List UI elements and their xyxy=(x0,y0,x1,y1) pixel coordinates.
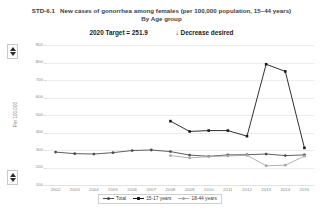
data-point-marker[interactable] xyxy=(73,152,76,155)
data-point-marker[interactable] xyxy=(265,153,268,156)
y-axis-tick-label: 900 xyxy=(30,43,43,47)
legend-label: 15-17 years xyxy=(146,196,171,201)
triangle-up-icon[interactable] xyxy=(10,173,16,177)
target-label: 2020 Target = 251.9 xyxy=(89,29,147,36)
triangle-up-icon[interactable] xyxy=(10,47,16,51)
x-axis-tick-label: 2009 xyxy=(180,187,200,192)
data-point-marker[interactable] xyxy=(131,149,134,152)
y-axis-tick-label: 800 xyxy=(30,60,43,64)
data-point-marker[interactable] xyxy=(227,129,230,132)
x-axis-tick-label: 2015 xyxy=(294,187,314,192)
chart-title-line: STD-6.1New cases of gonorrhea among fema… xyxy=(0,7,323,15)
scroll-down-spinner[interactable] xyxy=(7,170,18,185)
y-axis-tick-label: 300 xyxy=(30,148,43,152)
x-axis-tick-label: 2011 xyxy=(218,187,238,192)
data-point-marker[interactable] xyxy=(169,150,172,153)
target-block: 2020 Target = 251.9 ↓ Decrease desired xyxy=(0,29,323,36)
y-axis-tick-label: 600 xyxy=(30,95,43,99)
data-point-marker[interactable] xyxy=(169,120,172,123)
data-point-marker[interactable] xyxy=(188,156,191,159)
series-line xyxy=(170,64,304,148)
data-point-marker[interactable] xyxy=(207,129,210,132)
legend-swatch-icon xyxy=(103,196,114,201)
x-axis-tick-label: 2012 xyxy=(237,187,257,192)
measure-id: STD-6.1 xyxy=(32,7,55,14)
x-axis-tick-label: 2008 xyxy=(160,187,180,192)
chart-legend[interactable]: Total15-17 years18-44 years xyxy=(98,194,222,204)
data-point-marker[interactable] xyxy=(246,154,249,157)
data-point-marker[interactable] xyxy=(265,164,268,167)
series-layer xyxy=(46,45,314,185)
x-axis-line xyxy=(46,185,314,186)
data-point-marker[interactable] xyxy=(188,130,191,133)
plot-area: 900800700600500400300200100 200220032004… xyxy=(46,45,314,185)
data-point-marker[interactable] xyxy=(265,63,268,66)
y-axis-tick-label: 700 xyxy=(30,78,43,82)
x-axis-tick-label: 2003 xyxy=(65,187,85,192)
direction-indicator: ↓ Decrease desired xyxy=(176,29,234,36)
y-axis-tick-label: 100 xyxy=(30,183,43,187)
x-axis-tick-label: 2006 xyxy=(122,187,142,192)
chart-title-block: STD-6.1New cases of gonorrhea among fema… xyxy=(0,7,323,23)
triangle-down-icon[interactable] xyxy=(10,178,16,182)
triangle-down-icon[interactable] xyxy=(10,52,16,56)
data-point-marker[interactable] xyxy=(112,151,115,154)
series-line xyxy=(170,155,304,166)
direction-label: Decrease desired xyxy=(181,29,234,36)
page-title: New cases of gonorrhea among females (pe… xyxy=(60,7,291,14)
legend-label: 18-44 years xyxy=(191,196,216,201)
data-point-marker[interactable] xyxy=(226,155,229,158)
chart-page: STD-6.1New cases of gonorrhea among fema… xyxy=(0,0,323,221)
chart-subtitle: By Age group xyxy=(0,15,323,23)
data-point-marker[interactable] xyxy=(303,155,306,158)
data-point-marker[interactable] xyxy=(303,147,306,150)
y-axis-tick-label: 500 xyxy=(30,113,43,117)
legend-item[interactable]: 15-17 years xyxy=(133,196,171,201)
x-axis-tick-label: 2010 xyxy=(199,187,219,192)
legend-item[interactable]: 18-44 years xyxy=(178,196,216,201)
y-axis-tick-label: 400 xyxy=(30,130,43,134)
scroll-up-spinner[interactable] xyxy=(7,44,18,59)
y-axis-tick-label: 200 xyxy=(30,165,43,169)
x-axis-tick-label: 2014 xyxy=(275,187,295,192)
data-point-marker[interactable] xyxy=(188,154,191,157)
data-point-marker[interactable] xyxy=(150,149,153,152)
x-axis-tick-label: 2004 xyxy=(84,187,104,192)
x-axis-tick-label: 2002 xyxy=(46,187,66,192)
x-axis-tick-label: 2005 xyxy=(103,187,123,192)
data-point-marker[interactable] xyxy=(92,153,95,156)
legend-swatch-icon xyxy=(178,196,189,201)
x-axis-tick-label: 2007 xyxy=(141,187,161,192)
data-point-marker[interactable] xyxy=(246,135,249,138)
legend-label: Total xyxy=(116,196,126,201)
legend-swatch-icon xyxy=(133,196,144,201)
data-point-marker[interactable] xyxy=(169,154,172,157)
data-point-marker[interactable] xyxy=(284,164,287,167)
data-point-marker[interactable] xyxy=(284,154,287,157)
arrow-down-icon: ↓ xyxy=(176,29,179,36)
legend-item[interactable]: Total xyxy=(103,196,126,201)
data-point-marker[interactable] xyxy=(54,151,57,154)
x-axis-tick-label: 2013 xyxy=(256,187,276,192)
data-point-marker[interactable] xyxy=(284,70,287,73)
data-point-marker[interactable] xyxy=(207,155,210,158)
y-axis-label: Per 100,000 xyxy=(13,87,18,143)
